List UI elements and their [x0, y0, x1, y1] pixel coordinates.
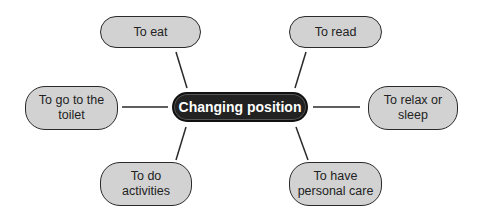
center-label: Changing position [179, 99, 302, 115]
center-node: Changing position [172, 92, 308, 122]
node-eat: To eat [100, 16, 201, 48]
node-label: To eat [133, 25, 167, 40]
node-label: To relax or sleep [377, 93, 449, 123]
node-activities: To do activities [100, 162, 192, 206]
node-toilet: To go to the toilet [25, 86, 118, 130]
node-label: To have personal care [292, 169, 379, 199]
connector-activities [176, 127, 186, 160]
connector-eat [176, 52, 187, 88]
node-personal-care: To have personal care [289, 162, 382, 206]
node-label: To do activities [115, 169, 177, 199]
node-label: To read [315, 25, 357, 40]
node-relax: To relax or sleep [368, 86, 458, 130]
node-label: To go to the toilet [32, 93, 111, 123]
connector-personal-care [296, 127, 308, 160]
connector-read [295, 52, 306, 88]
node-read: To read [289, 16, 382, 48]
